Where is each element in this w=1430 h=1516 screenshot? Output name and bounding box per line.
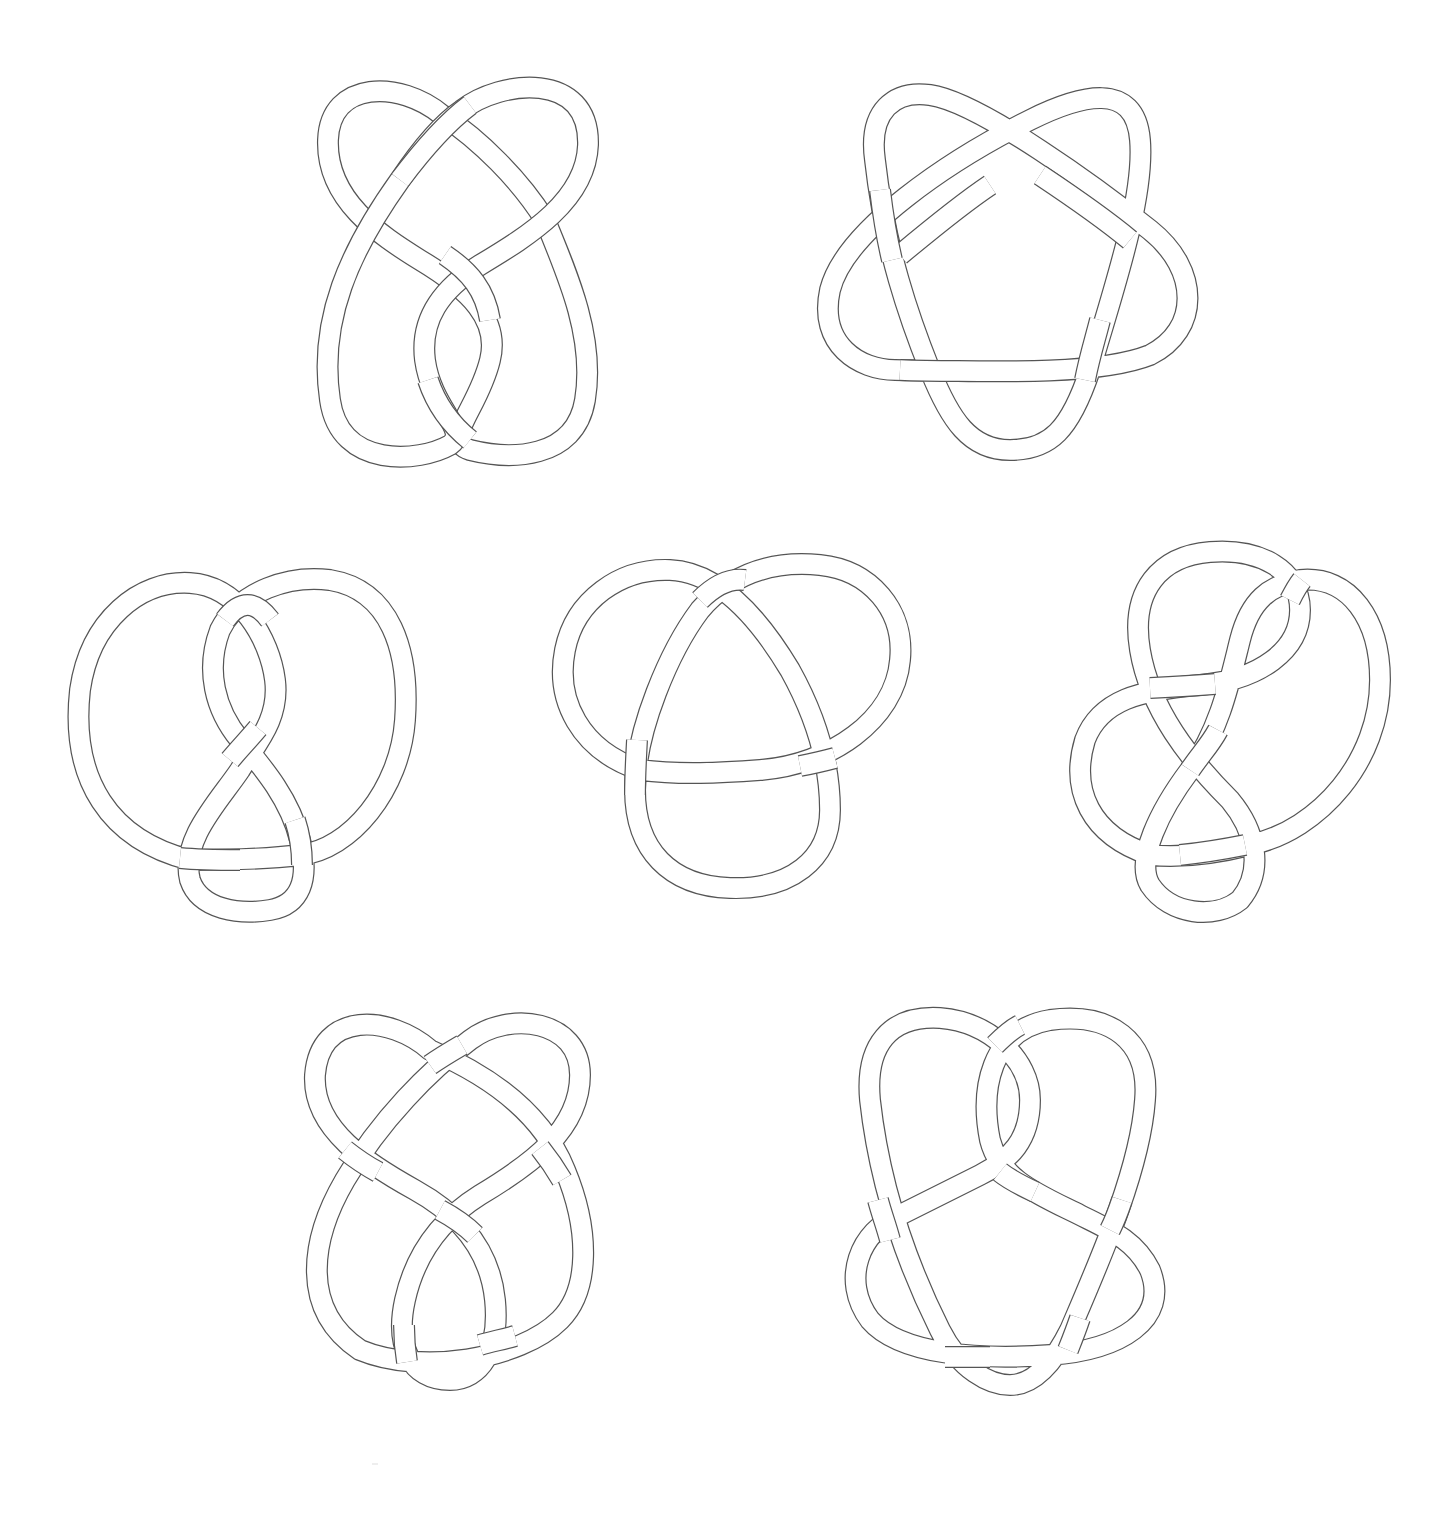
knot-5-svg: [1060, 540, 1400, 930]
knot-2-svg: [805, 75, 1215, 475]
knot-2-strands: [828, 94, 1188, 450]
knot-7-diagram: [840, 995, 1170, 1395]
knot-4-strands: [563, 564, 901, 888]
knot-3-diagram: [60, 560, 430, 930]
knot-1-strands: [327, 88, 588, 457]
knot-2-diagram: [805, 75, 1215, 475]
knot-1-diagram: [300, 60, 620, 480]
knot-7-svg: [840, 995, 1170, 1395]
knot-3-strands: [78, 579, 405, 912]
artifact-speck: [372, 1463, 378, 1465]
knot-6-diagram: [290, 995, 600, 1395]
knot-6-strands: [315, 1023, 583, 1380]
knot-4-diagram: [545, 550, 915, 900]
knot-5-strands: [1080, 552, 1380, 912]
knot-3-svg: [60, 560, 430, 930]
knot-1-svg: [300, 60, 620, 480]
knot-6-svg: [290, 995, 600, 1395]
knot-7-strands: [856, 1018, 1155, 1385]
knot-5-diagram: [1060, 540, 1400, 930]
knot-4-svg: [545, 550, 915, 900]
